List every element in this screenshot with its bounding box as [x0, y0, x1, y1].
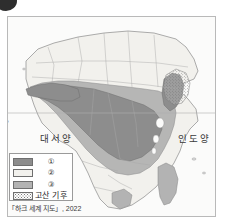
- map-canvas: 0° 대서양 인도양 ① ② ③ 고산 기후: [8, 17, 215, 216]
- ocean-label-atlantic: 대서양: [40, 131, 73, 145]
- map-frame: 0° 대서양 인도양 ① ② ③ 고산 기후: [7, 16, 216, 217]
- equator-label: 0°: [7, 120, 9, 127]
- ocean-label-indian: 인도양: [178, 131, 211, 145]
- legend-swatch-climate-2: [13, 169, 33, 177]
- legend-item-climate-1: ①: [13, 156, 69, 167]
- legend-item-climate-3: ③: [13, 179, 69, 190]
- legend-item-climate-2: ②: [13, 168, 69, 179]
- legend-swatch-climate-1: [13, 158, 33, 166]
- legend-swatch-highland-climate: [13, 192, 33, 200]
- legend-label-climate-2: ②: [33, 168, 69, 178]
- question-number-bullet: [0, 0, 17, 11]
- legend-item-highland-climate: 고산 기후: [13, 191, 69, 202]
- legend-swatch-climate-3: [13, 181, 33, 189]
- map-legend: ① ② ③ 고산 기후: [9, 153, 73, 201]
- legend-label-climate-3: ③: [33, 180, 69, 190]
- figure-root: 0° 대서양 인도양 ① ② ③ 고산 기후: [0, 0, 230, 224]
- source-citation: 「하크 세계 지도」, 2022: [8, 203, 81, 213]
- legend-label-climate-1: ①: [33, 157, 69, 167]
- legend-label-highland-climate: 고산 기후: [33, 191, 69, 201]
